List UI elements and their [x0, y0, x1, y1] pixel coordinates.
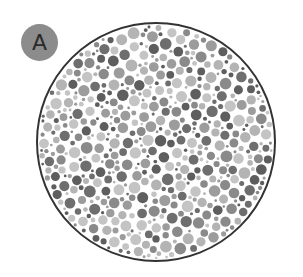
plate-dots — [39, 25, 272, 259]
color-test-plate — [0, 0, 303, 277]
